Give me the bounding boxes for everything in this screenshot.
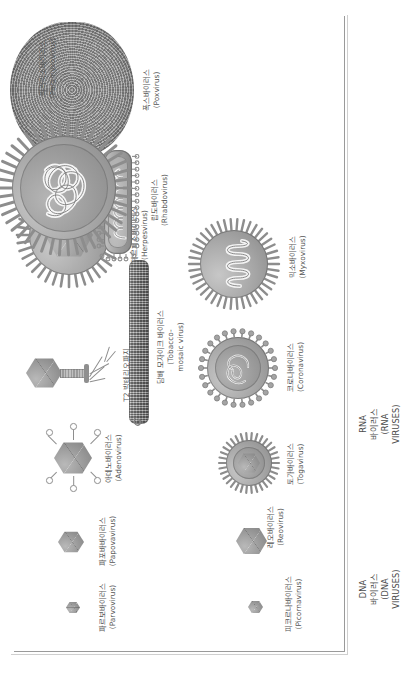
label-coronavirus: 코로나바이러스 (Coronavirus)	[286, 318, 306, 416]
label-tmv-en-line2: mosaic virus)	[176, 282, 186, 412]
label-adenovirus-ko: 아데노바이러스	[104, 411, 114, 505]
label-rhabdovirus-ko: 랍도바이러스	[150, 150, 160, 250]
specimen-myxovirus	[188, 218, 280, 310]
label-tmv-ko: 담배 모자이크 바이러스	[156, 282, 166, 412]
label-picornavirus-en: (Picornavirus)	[294, 552, 304, 656]
coronavirus-rna-strand-icon	[215, 345, 261, 391]
label-myxovirus: 믹소바이러스 (Myxovirus)	[288, 212, 308, 302]
label-togavirus-en: (Togavirus)	[296, 414, 306, 514]
adenovirus-penton-knob	[94, 478, 101, 485]
label-rhabdovirus: 랍도바이러스 (Rhabdovirus)	[150, 150, 170, 250]
specimen-tobacco-mosaic-virus	[128, 258, 150, 430]
label-picornavirus: 피코르나바이러스 (Picornavirus)	[284, 552, 304, 656]
paramyxovirus-tangled-nucleocapsid-icon	[22, 146, 106, 230]
label-tobacco-mosaic-virus: 담배 모자이크 바이러스 (Tobacco- mosaic virus)	[156, 282, 187, 412]
row-label-dna: DNA 바이러스 (DNA VIRUSES)	[358, 544, 402, 634]
axis-bottom	[344, 16, 345, 652]
adenovirus-penton-knob	[70, 486, 77, 493]
label-coronavirus-en: (Coronavirus)	[296, 318, 306, 416]
label-tmv-en-line1: (Tobacco-	[166, 282, 176, 412]
parvovirus-capsid-icon	[66, 601, 80, 614]
label-paramyxovirus-ko: 파라믹소바이러스	[38, 8, 48, 128]
phage-tail-fiber	[90, 378, 106, 383]
label-myxovirus-en: (Myxovirus)	[298, 212, 308, 302]
label-paramyxovirus-en: (Paramyxovirus)	[48, 8, 58, 128]
tmv-rna-end-icon	[128, 408, 150, 430]
label-paramyxovirus: 파라믹소바이러스 (Paramyxovirus)	[38, 8, 58, 128]
specimen-adenovirus	[44, 428, 100, 488]
adenovirus-penton-knob	[94, 430, 101, 437]
row-label-rna-line1: RNA	[358, 379, 369, 469]
tmv-rod-icon	[129, 260, 149, 424]
label-poxvirus-ko: 폭스바이러스	[142, 36, 152, 144]
adenovirus-penton-knob	[70, 424, 77, 431]
label-papovavirus: 파포바바이러스 (Papovavirus)	[98, 494, 118, 588]
adenovirus-penton-knob	[46, 478, 53, 485]
phage-head-icon	[26, 356, 62, 390]
label-papovavirus-ko: 파포바바이러스	[98, 494, 108, 588]
specimen-coronavirus	[198, 328, 278, 408]
phage-tail-icon	[60, 369, 86, 378]
axis-bottom-shadow	[347, 15, 348, 655]
phage-baseplate-icon	[84, 364, 89, 383]
specimen-togavirus	[218, 432, 280, 494]
label-togavirus-ko: 토가바이러스	[286, 414, 296, 514]
adenovirus-fiber	[90, 435, 99, 444]
label-rhabdovirus-en: (Rhabdovirus)	[160, 150, 170, 250]
label-myxovirus-ko: 믹소바이러스	[288, 212, 298, 302]
row-label-dna-line1: DNA	[358, 544, 369, 634]
myxovirus-helical-nucleocapsid-icon	[210, 236, 258, 292]
label-papovavirus-en: (Papovavirus)	[108, 494, 118, 588]
reovirus-capsid-icon	[236, 526, 267, 556]
specimen-t2-bacteriophage	[26, 320, 112, 392]
row-label-rna-line2: 바이러스	[369, 379, 380, 469]
row-label-rna-line3: (RNA	[380, 379, 391, 469]
row-label-rna: RNA 바이러스 (RNA VIRUSES)	[358, 379, 402, 469]
label-coronavirus-ko: 코로나바이러스	[286, 318, 296, 416]
label-togavirus: 토가바이러스 (Togavirus)	[286, 414, 306, 514]
papovavirus-capsid-icon	[58, 530, 84, 554]
row-label-rna-line4: VIRUSES)	[391, 379, 402, 469]
adenovirus-capsid-icon	[54, 440, 92, 476]
picornavirus-capsid-icon	[248, 600, 263, 614]
label-poxvirus: 폭스바이러스 (Poxvirus)	[142, 36, 162, 144]
row-label-dna-line2: 바이러스	[369, 544, 380, 634]
row-label-dna-line3: (DNA	[380, 544, 391, 634]
adenovirus-penton-knob	[46, 430, 53, 437]
label-reovirus-ko: 레오바이러스	[266, 480, 276, 574]
label-reovirus: 레오바이러스 (Reovirus)	[266, 480, 286, 574]
specimen-paramyxovirus	[0, 120, 132, 256]
row-label-dna-line4: VIRUSES)	[391, 544, 402, 634]
adenovirus-fiber	[48, 435, 57, 444]
label-poxvirus-en: (Poxvirus)	[152, 36, 162, 144]
label-reovirus-en: (Reovirus)	[276, 480, 286, 574]
